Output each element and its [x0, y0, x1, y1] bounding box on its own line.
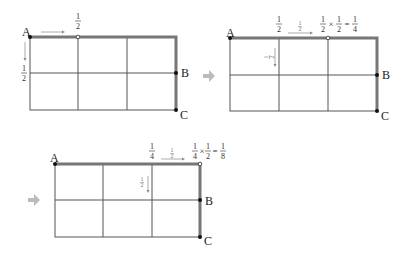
- grid-diagram-3: [53, 158, 202, 240]
- svg-text:2: 2: [277, 25, 281, 34]
- svg-text:2: 2: [76, 22, 80, 31]
- fraction-top-1: 1 2: [75, 12, 81, 31]
- svg-text:2: 2: [171, 153, 174, 159]
- svg-text:1: 1: [150, 142, 154, 151]
- fraction-arrow-3: 1 2: [170, 147, 174, 159]
- step-arrow-icon: [203, 70, 215, 82]
- svg-text:1: 1: [337, 15, 341, 24]
- fraction-left-1: 1 2: [21, 64, 27, 83]
- svg-text:=: =: [344, 19, 349, 29]
- svg-text:2: 2: [337, 25, 341, 34]
- svg-text:2: 2: [321, 25, 325, 34]
- svg-text:1: 1: [193, 142, 197, 151]
- fraction-arrow-2: 1 2: [298, 20, 302, 32]
- svg-text:1: 1: [321, 15, 325, 24]
- fraction-top-left-2: 1 2: [276, 15, 282, 34]
- svg-text:1: 1: [353, 15, 357, 24]
- point-c-label: C: [180, 108, 188, 122]
- svg-text:2: 2: [299, 26, 302, 32]
- diagram-canvas: A B C 1 2 1 2 A B C 1 2 1: [0, 0, 408, 263]
- equation-3: 1 4 × 1 2 = 1 8: [192, 142, 226, 161]
- svg-text:1: 1: [76, 12, 80, 21]
- svg-text:1: 1: [221, 142, 225, 151]
- point-c-label: C: [204, 234, 212, 248]
- step-arrow-icon: [28, 194, 40, 206]
- svg-text:2: 2: [206, 152, 210, 161]
- fraction-side-3: 1 2: [140, 176, 144, 188]
- svg-text:1: 1: [22, 64, 26, 73]
- svg-text:1: 1: [206, 142, 210, 151]
- svg-text:4: 4: [150, 152, 154, 161]
- grid-diagram-1: [24, 31, 179, 113]
- fraction-side-2: 1 2: [263, 55, 275, 59]
- equation-2: 1 2 × 1 2 = 1 4: [320, 15, 358, 34]
- svg-text:2: 2: [269, 56, 275, 59]
- svg-text:1: 1: [277, 15, 281, 24]
- grid-diagram-2: [228, 32, 379, 114]
- svg-text:8: 8: [221, 152, 225, 161]
- point-b-label: B: [181, 66, 189, 80]
- svg-text:2: 2: [141, 182, 144, 188]
- point-a-label: A: [50, 151, 59, 165]
- svg-text:×: ×: [199, 146, 204, 156]
- fraction-top-left-3: 1 4: [149, 142, 155, 161]
- svg-text:4: 4: [353, 25, 357, 34]
- point-c-label: C: [381, 109, 389, 123]
- svg-text:4: 4: [193, 152, 197, 161]
- point-a-label: A: [226, 26, 235, 40]
- svg-text:2: 2: [22, 74, 26, 83]
- point-b-label: B: [382, 68, 390, 82]
- point-b-label: B: [205, 194, 213, 208]
- svg-text:=: =: [212, 146, 217, 156]
- point-a-label: A: [22, 25, 31, 39]
- svg-text:×: ×: [328, 19, 333, 29]
